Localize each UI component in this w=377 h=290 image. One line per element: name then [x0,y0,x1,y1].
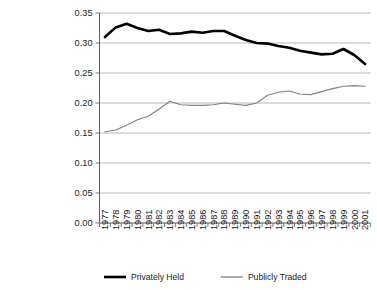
x-tick-label-1979: 1979 [122,210,132,230]
y-tick-label: 0.00 [75,218,93,228]
line-chart: 0.000.050.100.150.200.250.300.35 1977197… [0,0,377,290]
x-tick-label-2001: 2001 [360,210,370,230]
x-tick-label-1999: 1999 [339,210,349,230]
x-tick-label-1989: 1989 [230,210,240,230]
x-tick-label-1998: 1998 [328,210,338,230]
legend: Privately HeldPublicly Traded [104,272,307,282]
y-tick-label: 0.25 [75,68,93,78]
x-tick-label-1994: 1994 [285,210,295,230]
y-tick-label: 0.05 [75,188,93,198]
x-tick-label-1982: 1982 [154,210,164,230]
y-gridlines [100,13,371,193]
x-tick-label-1984: 1984 [176,210,186,230]
x-tick-label-1987: 1987 [209,210,219,230]
x-tick-label-1985: 1985 [187,210,197,230]
y-axis [96,13,100,223]
x-tick-label-1986: 1986 [198,210,208,230]
series-line-publicly-traded [105,86,365,132]
x-tick-label-1992: 1992 [263,210,273,230]
y-tick-label: 0.30 [75,38,93,48]
data-series-group [105,24,365,132]
x-tick-label-1990: 1990 [241,210,251,230]
x-tick-label-1977: 1977 [100,210,110,230]
x-tick-label-1997: 1997 [317,210,327,230]
legend-label-publicly-traded: Publicly Traded [248,272,307,282]
y-tick-labels: 0.000.050.100.150.200.250.300.35 [75,8,93,228]
y-tick-label: 0.15 [75,128,93,138]
chart-canvas: 0.000.050.100.150.200.250.300.35 1977197… [0,0,377,290]
y-tick-label: 0.35 [75,8,93,18]
x-tick-label-1981: 1981 [144,210,154,230]
x-tick-label-1991: 1991 [252,210,262,230]
x-tick-labels: 1977197819791980198119821983198419851986… [100,210,370,230]
x-tick-label-1978: 1978 [111,210,121,230]
x-tick-label-1993: 1993 [274,210,284,230]
series-line-privately-held [105,24,365,64]
x-tick-label-1996: 1996 [306,210,316,230]
x-tick-label-2000: 2000 [350,210,360,230]
x-tick-label-1995: 1995 [295,210,305,230]
x-tick-label-1980: 1980 [133,210,143,230]
y-tick-label: 0.10 [75,158,93,168]
x-tick-label-1988: 1988 [219,210,229,230]
legend-label-privately-held: Privately Held [131,272,184,282]
y-tick-label: 0.20 [75,98,93,108]
x-tick-label-1983: 1983 [165,210,175,230]
